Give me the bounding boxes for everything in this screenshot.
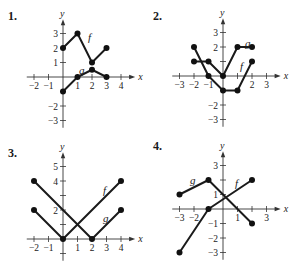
y-tick-label: 3 <box>213 161 218 171</box>
x-arrow-icon <box>275 207 281 211</box>
data-point <box>235 44 241 50</box>
problem-number: 2. <box>153 9 162 23</box>
y-tick-label: 1 <box>213 190 218 200</box>
x-tick-label: 3 <box>104 81 109 91</box>
data-point <box>206 59 212 65</box>
problem-number: 4. <box>153 139 162 153</box>
x-tick-label: 1 <box>75 81 80 91</box>
y-arrow-icon <box>221 18 225 24</box>
y-tick-label: 4 <box>53 177 58 187</box>
y-arrow-icon <box>61 19 65 25</box>
series-f <box>34 181 121 239</box>
data-point <box>206 177 212 183</box>
y-tick-label: −2 <box>208 234 218 244</box>
data-point <box>249 221 255 227</box>
data-point <box>191 59 197 65</box>
data-point <box>104 45 110 51</box>
data-point <box>104 74 110 80</box>
y-tick-label: −2 <box>208 101 218 111</box>
f-label: f <box>235 177 240 189</box>
x-arrow-icon <box>275 74 281 78</box>
problem-number: 1. <box>8 9 17 23</box>
x-tick-label: −3 <box>174 213 184 223</box>
x-tick-label: 2 <box>90 81 95 91</box>
g-label: g <box>103 212 109 224</box>
y-tick-label: 5 <box>53 162 58 172</box>
data-point <box>118 207 124 213</box>
data-point <box>89 236 95 242</box>
data-point <box>118 178 124 184</box>
data-point <box>235 88 241 94</box>
series-g <box>63 70 107 92</box>
x-tick-label: −2 <box>29 81 39 91</box>
y-arrow-icon <box>61 152 65 158</box>
x-tick-label: 3 <box>104 243 109 253</box>
series-f <box>63 34 107 63</box>
x-tick-label: −1 <box>43 81 53 91</box>
x-axis-label: x <box>283 203 289 214</box>
data-point <box>220 73 226 79</box>
data-point <box>191 44 197 50</box>
data-point <box>89 60 95 66</box>
x-tick-label: −2 <box>189 213 199 223</box>
x-tick-label: −2 <box>189 80 199 90</box>
x-tick-label: −1 <box>203 80 213 90</box>
data-point <box>249 177 255 183</box>
y-tick-label: 2 <box>53 206 58 216</box>
y-tick-label: 3 <box>53 29 58 39</box>
x-tick-label: 1 <box>235 213 240 223</box>
data-point <box>249 59 255 65</box>
y-axis-label: y <box>59 141 65 152</box>
f-label: f <box>88 31 93 43</box>
g-label: g <box>245 37 251 49</box>
x-axis-label: x <box>137 71 143 82</box>
y-axis-label: y <box>219 7 225 18</box>
x-tick-label: 2 <box>90 243 95 253</box>
x-tick-label: 2 <box>250 80 255 90</box>
data-point <box>31 178 37 184</box>
x-tick-label: −3 <box>174 80 184 90</box>
data-point <box>60 236 66 242</box>
data-point <box>60 89 66 95</box>
y-tick-label: 2 <box>53 44 58 54</box>
y-arrow-icon <box>221 151 225 157</box>
x-tick-label: 4 <box>119 243 124 253</box>
y-tick-label: −3 <box>208 115 218 125</box>
graph-3: 3.xy−2−11234245fg <box>8 141 143 260</box>
x-tick-label: 4 <box>119 81 124 91</box>
data-point <box>177 250 183 256</box>
y-tick-label: 2 <box>213 43 218 53</box>
data-point <box>60 45 66 51</box>
y-tick-label: 3 <box>213 28 218 38</box>
f-label: f <box>240 60 245 72</box>
g-label: g <box>190 174 196 186</box>
y-tick-label: −2 <box>48 102 58 112</box>
problem-number: 3. <box>8 146 17 160</box>
x-arrow-icon <box>129 75 135 79</box>
y-tick-label: −3 <box>48 116 58 126</box>
data-point <box>89 67 95 73</box>
data-point <box>75 31 81 37</box>
data-point <box>206 73 212 79</box>
y-tick-label: −3 <box>208 248 218 258</box>
x-axis-label: x <box>137 233 143 244</box>
x-tick-label: 3 <box>264 213 269 223</box>
series-g <box>34 181 121 239</box>
graph-1: 1.xy−2−11234−3−2123fg <box>8 8 143 127</box>
data-point <box>31 207 37 213</box>
data-point <box>220 88 226 94</box>
graphs-canvas: 1.xy−2−11234−3−2123fg2.xy−3−2−123−3−223f… <box>0 0 305 269</box>
graph-2: 2.xy−3−2−123−3−223fg <box>153 7 289 126</box>
x-tick-label: 1 <box>75 243 80 253</box>
x-tick-label: 3 <box>264 80 269 90</box>
g-label: g <box>79 64 85 76</box>
x-tick-label: −2 <box>29 243 39 253</box>
y-axis-label: y <box>219 140 225 151</box>
y-axis-label: y <box>59 8 65 19</box>
graph-4: 4.xy−3−213−3−2−113fg <box>153 139 289 260</box>
x-tick-label: −1 <box>43 243 53 253</box>
y-tick-label: −1 <box>208 219 218 229</box>
data-point <box>206 206 212 212</box>
data-point <box>177 192 183 198</box>
y-tick-label: 1 <box>53 58 58 68</box>
